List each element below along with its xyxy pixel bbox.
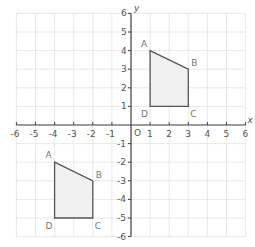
x-tick-label: 2: [166, 129, 172, 139]
x-tick-label: -1: [106, 129, 115, 139]
origin-label: O: [134, 128, 141, 138]
x-tick-label: -3: [68, 129, 77, 139]
y-tick-label: 5: [121, 27, 127, 37]
coordinate-plane: ABCDABCD-6-5-4-3-2-1123456654321-1-2-3-4…: [0, 0, 255, 247]
vertex-label-c: C: [190, 109, 196, 119]
axes: [16, 13, 245, 236]
x-tick-label: 4: [204, 129, 210, 139]
x-tick-label: 6: [243, 129, 249, 139]
x-axis-label: x: [247, 115, 254, 125]
vertex-label-a: A: [46, 150, 53, 160]
labels: ABCDABCD-6-5-4-3-2-1123456654321-1-2-3-4…: [10, 3, 253, 241]
y-tick-label: -4: [117, 194, 126, 204]
y-tick-label: -5: [117, 213, 126, 223]
y-tick-label: 3: [121, 64, 127, 74]
vertex-label-b: B: [191, 58, 197, 68]
y-tick-label: 2: [121, 83, 127, 93]
x-tick-label: 1: [147, 129, 153, 139]
y-tick-label: -3: [117, 176, 126, 186]
vertex-label-a: A: [141, 39, 148, 49]
vertex-label-d: D: [141, 109, 148, 119]
x-tick-label: -4: [49, 129, 58, 139]
x-tick-label: 5: [224, 129, 230, 139]
y-tick-label: 4: [121, 46, 127, 56]
vertex-label-d: D: [46, 221, 53, 231]
vertex-label-b: B: [96, 170, 102, 180]
y-tick-label: -2: [117, 157, 126, 167]
y-axis-label: y: [133, 3, 140, 13]
y-tick-label: 6: [121, 8, 127, 18]
vertex-label-c: C: [95, 221, 101, 231]
y-tick-label: 1: [121, 101, 127, 111]
x-tick-label: -2: [87, 129, 96, 139]
x-tick-label: -6: [10, 129, 19, 139]
y-tick-label: -6: [117, 232, 126, 242]
x-tick-label: -5: [30, 129, 39, 139]
y-tick-label: -1: [117, 139, 126, 149]
x-tick-label: 3: [185, 129, 191, 139]
